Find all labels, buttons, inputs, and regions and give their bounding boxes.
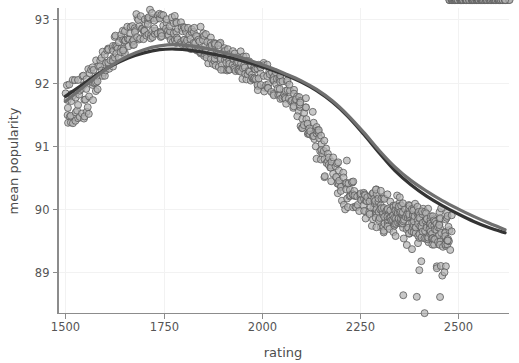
scatter-point <box>309 108 316 115</box>
scatter-point <box>416 267 423 274</box>
scatter-point <box>350 178 357 185</box>
scatter-point <box>448 228 455 235</box>
y-tick-label: 92 <box>35 77 50 91</box>
x-tick-labels: 15001750200022502500 <box>51 320 473 334</box>
scatter-point <box>75 101 82 108</box>
scatter-point <box>377 187 384 194</box>
scatter-point <box>413 293 420 300</box>
scatter-point <box>418 258 425 265</box>
y-axis-title: mean popularity <box>6 107 21 214</box>
scatter-point <box>421 310 428 317</box>
scatter-point <box>392 233 399 240</box>
scatter-point <box>85 110 92 117</box>
y-tick-label: 93 <box>35 13 50 27</box>
scatter-point <box>400 292 407 299</box>
scatter-point <box>84 104 91 111</box>
scatter-point <box>447 246 454 253</box>
scatter-point <box>94 86 101 93</box>
scatter-point <box>409 246 416 253</box>
scatter-point <box>441 269 448 276</box>
scatter-point <box>502 0 509 4</box>
x-tick-label: 1500 <box>51 320 80 334</box>
scatter-point <box>303 104 310 111</box>
scatter-point <box>436 222 443 229</box>
scatter-point <box>302 95 309 102</box>
scatter-point <box>444 237 451 244</box>
scatter-point <box>191 24 198 31</box>
scatter-point <box>335 159 342 166</box>
scatter-point <box>321 137 328 144</box>
scatter-plot-svg: 15001750200022502500 8990919293 rating m… <box>0 0 519 363</box>
x-tick-label: 2500 <box>444 320 473 334</box>
chart-figure: 15001750200022502500 8990919293 rating m… <box>0 0 519 363</box>
scatter-point <box>373 224 380 231</box>
x-tick-label: 2250 <box>346 320 375 334</box>
scatter-point <box>158 33 165 40</box>
trend-lines <box>65 45 505 233</box>
x-tick-label: 1750 <box>150 320 179 334</box>
x-tick-label: 2000 <box>248 320 277 334</box>
scatter-point <box>197 23 204 30</box>
scatter-point <box>64 104 71 111</box>
scatter-point <box>384 191 391 198</box>
scatter-point <box>437 294 444 301</box>
scatter-point <box>343 157 350 164</box>
y-tick-label: 89 <box>35 266 50 280</box>
y-tick-labels: 8990919293 <box>35 13 50 280</box>
scatter-point <box>321 173 328 180</box>
scatter-point <box>90 97 97 104</box>
scatter-points <box>62 0 513 317</box>
trend-line-trend-grey <box>65 45 505 230</box>
y-tick-label: 90 <box>35 203 50 217</box>
x-axis-title: rating <box>264 345 303 360</box>
trend-line-trend-dark <box>65 49 505 233</box>
y-tick-label: 91 <box>35 140 50 154</box>
